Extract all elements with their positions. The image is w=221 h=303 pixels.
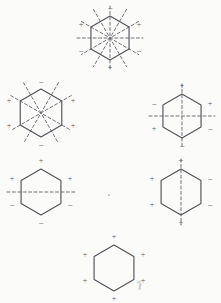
sign-upper-left: + — [10, 175, 15, 183]
sign-lower-right: − — [207, 201, 212, 209]
sign-lower-left: + — [7, 122, 12, 130]
figure-sheet: − + + − − + − + + + + − — [0, 0, 221, 303]
sign-top: + — [180, 82, 185, 90]
sign-upper-right: − — [207, 175, 212, 183]
sign-upper-left: + — [150, 175, 155, 183]
sign-top: − — [38, 78, 43, 86]
sign-bottom: + — [112, 295, 117, 303]
sign-lower-left: + — [152, 125, 157, 133]
sign-lower-left: − — [9, 201, 14, 209]
sign-bottom: − — [38, 219, 43, 227]
sign-lower-right: − — [207, 125, 212, 133]
sign-upper-left: + — [79, 21, 84, 29]
sign-lower-right: − — [136, 47, 141, 55]
sign-lower-left: + — [150, 201, 155, 209]
hexagon-ring-outline — [94, 245, 134, 291]
sign-upper-right: + — [141, 251, 146, 259]
sign-upper-right: + — [208, 100, 213, 108]
sign-lower-left: − — [78, 47, 83, 55]
sign-upper-right: + — [68, 175, 73, 183]
sign-upper-right: + — [137, 21, 142, 29]
sign-top: + — [112, 233, 117, 241]
sign-bottom: − — [179, 142, 184, 150]
sign-top: + — [39, 157, 44, 165]
sign-upper-left: + — [83, 251, 88, 259]
sign-upper-right: + — [71, 97, 76, 105]
sign-lower-right: − — [67, 201, 72, 209]
scan-speck — [108, 194, 110, 196]
sign-lower-right: + — [71, 122, 76, 130]
sign-bottom: + — [179, 219, 184, 227]
sign-top: − — [107, 4, 112, 12]
sign-upper-left: + — [7, 97, 12, 105]
sign-bottom: + — [108, 64, 113, 72]
sign-bottom: − — [38, 141, 43, 149]
sign-upper-left: − — [151, 100, 156, 108]
sign-lower-left: + — [83, 277, 88, 285]
sign-top: + — [179, 157, 184, 165]
